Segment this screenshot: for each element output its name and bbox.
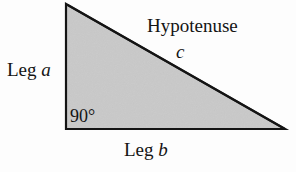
label-hypotenuse-variable: c (176, 42, 184, 61)
right-triangle-figure: Leg a Hypotenuse c 90° Leg b (0, 0, 296, 172)
label-leg-a-variable: a (41, 59, 51, 80)
label-leg-b-variable: b (158, 139, 168, 160)
label-leg-b-text: Leg (124, 139, 158, 160)
label-hypotenuse: Hypotenuse (147, 16, 238, 35)
label-leg-b: Leg b (124, 140, 168, 159)
label-right-angle: 90° (70, 107, 95, 125)
label-leg-a: Leg a (7, 60, 51, 79)
label-leg-a-text: Leg (7, 59, 41, 80)
